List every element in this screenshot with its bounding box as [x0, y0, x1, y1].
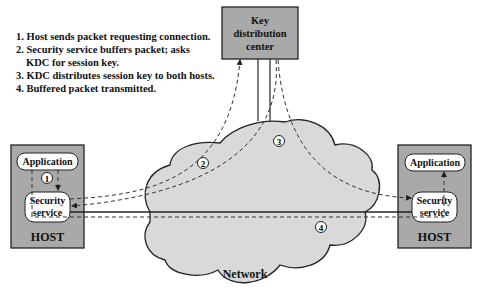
svg-text:1: 1	[45, 174, 50, 184]
network-label: Network	[223, 267, 268, 281]
right-security-label-2: service	[420, 207, 450, 218]
diagram-canvas: Network Key distribution center Applicat…	[0, 0, 481, 300]
network-cloud	[145, 120, 379, 283]
svg-text:4: 4	[319, 223, 324, 233]
kdc-label-2: distribution	[233, 28, 286, 39]
right-security-label-1: Security	[417, 195, 453, 206]
marker-3: 3	[274, 136, 285, 147]
marker-1: 1	[42, 173, 53, 184]
marker-2: 2	[198, 158, 209, 169]
svg-text:2: 2	[201, 159, 206, 169]
left-application-label: Application	[22, 156, 72, 167]
kdc-label-3: center	[246, 41, 274, 52]
left-host-label: HOST	[31, 230, 64, 244]
marker-4: 4	[316, 222, 327, 233]
right-host-label: HOST	[418, 230, 451, 244]
kdc-label-1: Key	[251, 15, 270, 26]
svg-text:3: 3	[277, 137, 282, 147]
right-application-label: Application	[410, 157, 460, 168]
left-security-label-1: Security	[30, 195, 66, 206]
left-security-label-2: service	[33, 207, 63, 218]
